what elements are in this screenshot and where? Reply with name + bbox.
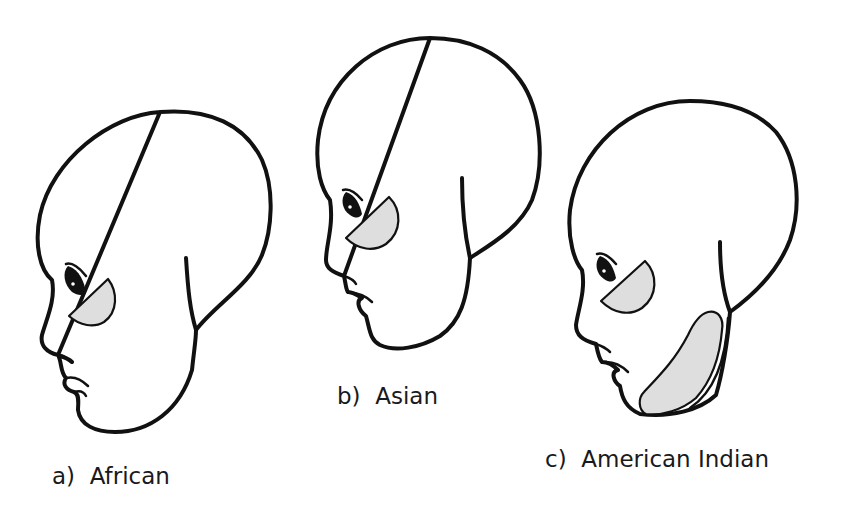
label-african: a) African [52,463,170,489]
label-american-indian: c) American Indian [545,446,769,472]
label-asian: b) Asian [337,383,438,409]
eye-highlight-african [71,282,75,286]
head-outline-asian [317,38,539,348]
head-african [38,111,271,432]
neck-line-african [186,258,196,330]
neck-line-asian [462,178,470,258]
head-american-indian [569,101,796,415]
neck-line-american-indian [720,242,730,312]
figure-canvas: a) African b) Asian c) American Indian [0,0,841,513]
eye-highlight-asian [348,205,352,209]
eye-highlight-american-indian [602,269,606,273]
head-asian [317,38,539,348]
